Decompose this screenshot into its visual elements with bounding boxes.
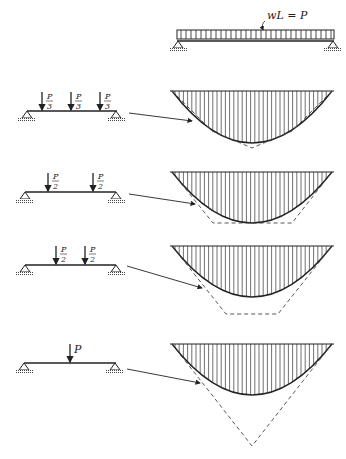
moment-diagram-figure: wL = P P3 P3 P3 P2 P2 [0,0,346,459]
pin-support-icon [169,41,187,52]
svg-text:P: P [75,92,82,101]
pin-support-icon [15,363,33,374]
pointer-arrow [129,113,192,121]
svg-text:2: 2 [60,255,66,264]
svg-text:2: 2 [97,182,103,191]
panel-two-loads-wide: P2 P2 [16,172,334,232]
svg-text:P: P [60,245,67,254]
pin-support-icon [18,111,36,122]
pin-support-icon [16,265,34,276]
panel-single-load: P [15,343,334,446]
svg-text:P: P [52,172,59,181]
pointer-arrow [127,369,200,383]
svg-text:2: 2 [89,255,95,264]
pin-support-icon [16,192,34,203]
moment-diagram [170,91,334,151]
svg-text:P: P [89,245,96,254]
svg-text:P: P [97,172,104,181]
svg-text:3: 3 [76,102,81,111]
leader-arrow [262,21,265,30]
panel-two-loads-close: P2 P2 [16,245,334,314]
moment-diagram [170,344,334,446]
svg-text:P: P [46,92,53,101]
svg-text:P: P [73,343,82,356]
roller-support-icon [107,192,125,203]
panel-three-loads: P3 P3 P3 [18,91,334,151]
moment-diagram [170,246,334,314]
svg-text:P: P [104,92,111,101]
pointer-arrow [129,194,195,204]
svg-text:2: 2 [52,182,58,191]
svg-text:3: 3 [47,102,52,111]
load-label: wL = P [267,9,308,22]
moment-diagram [170,172,334,232]
roller-support-icon [106,363,124,374]
uniform-load-beam: wL = P [169,9,342,52]
distributed-load-hatch [181,30,331,39]
svg-text:3: 3 [105,102,110,111]
roller-support-icon [324,41,342,52]
roller-support-icon [107,265,125,276]
roller-support-icon [107,111,125,122]
